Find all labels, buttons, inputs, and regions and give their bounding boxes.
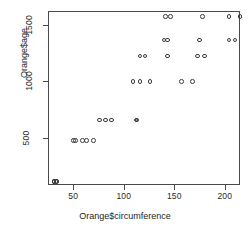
data-point	[148, 79, 153, 84]
data-point	[190, 79, 195, 84]
data-point	[179, 79, 184, 84]
data-point	[131, 79, 136, 84]
data-point	[238, 14, 243, 19]
data-point	[168, 14, 173, 19]
data-point	[200, 14, 205, 19]
data-point	[163, 14, 168, 19]
x-axis-tick-label: 150	[167, 191, 182, 201]
data-point	[165, 54, 170, 59]
plot-panel	[48, 11, 240, 185]
x-axis-label: Orange$circumference	[0, 211, 250, 221]
x-axis-tick	[174, 185, 175, 190]
data-point	[202, 54, 207, 59]
scatter-plot-figure: Orange$circumference Orange$age 50100150…	[0, 0, 250, 235]
x-axis-tick-label: 100	[116, 191, 131, 201]
y-axis-tick	[43, 25, 48, 26]
data-points-layer	[49, 12, 239, 184]
data-point	[227, 38, 232, 43]
y-axis-tick-label: 1500	[24, 15, 34, 35]
data-point	[84, 138, 89, 143]
y-axis-tick-label: 500	[21, 130, 31, 145]
y-axis-tick-label: 1000	[24, 71, 34, 91]
x-axis-tick	[124, 185, 125, 190]
data-point	[109, 118, 114, 123]
x-axis-tick-label: 200	[217, 191, 232, 201]
data-point	[103, 118, 108, 123]
data-point	[227, 14, 232, 19]
data-point	[71, 138, 76, 143]
x-axis-tick	[73, 185, 74, 190]
data-point	[143, 54, 148, 59]
data-point	[97, 118, 102, 123]
data-point	[91, 138, 96, 143]
data-point	[138, 54, 143, 59]
y-axis-tick	[43, 138, 48, 139]
data-point	[233, 38, 238, 43]
data-point	[195, 54, 200, 59]
data-point	[135, 118, 140, 123]
x-axis-tick	[225, 185, 226, 190]
y-axis-tick	[43, 81, 48, 82]
data-point	[197, 38, 202, 43]
data-point	[138, 79, 143, 84]
x-axis-tick-label: 50	[68, 191, 78, 201]
